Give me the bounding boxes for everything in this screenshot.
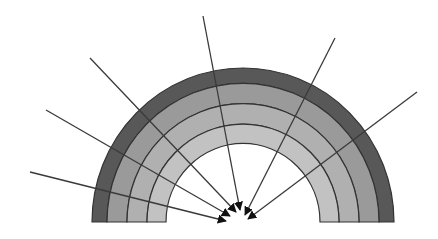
diagram-canvas	[0, 0, 438, 239]
arch-diagram	[0, 0, 438, 239]
